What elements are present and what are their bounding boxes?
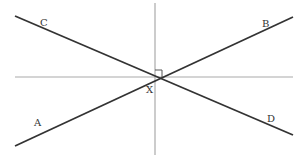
diagram: C B A D X [0,0,307,160]
label-a: A [33,117,42,128]
line-cd [15,16,293,135]
label-d: D [267,113,275,124]
line-ab [15,17,293,146]
label-b: B [262,18,269,29]
label-c: C [40,17,48,28]
diagram-canvas: C B A D X [0,0,307,160]
label-x: X [146,84,154,95]
